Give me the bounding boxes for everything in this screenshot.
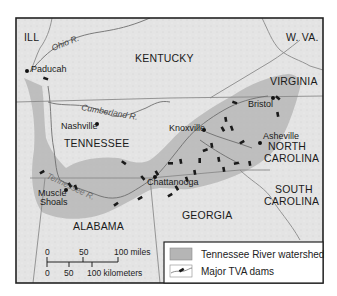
legend-watershed-label: Tennessee River watershed: [201, 249, 324, 260]
scale-km-50: 50: [64, 268, 74, 278]
city-label-asheville: Asheville: [263, 131, 299, 141]
state-label-ill: ILL: [24, 31, 39, 43]
state-label-georgia: GEORGIA: [182, 209, 232, 221]
city-label-paducah: Paducah: [31, 64, 67, 74]
city-label-nashville: Nashville: [61, 121, 98, 131]
state-label-wva: W. VA.: [286, 31, 319, 43]
city-dot-asheville: [258, 141, 262, 145]
city-label-knoxville: Knoxville: [169, 123, 205, 133]
scale-miles-100: 100 miles: [114, 247, 150, 257]
state-label-kentucky: KENTUCKY: [135, 52, 194, 64]
scale-miles-50: 50: [79, 247, 89, 257]
state-label-north: NORTH: [268, 140, 306, 152]
city-label-shoals: Shoals: [40, 197, 68, 207]
state-label-south: SOUTH: [275, 183, 313, 195]
state-label-alabama: ALABAMA: [73, 220, 124, 232]
state-label-tennessee: TENNESSEE: [64, 137, 129, 149]
scale-miles-0: 0: [45, 247, 50, 257]
dam-icon: [168, 162, 173, 165]
city-label-bristol: Bristol: [248, 99, 273, 109]
legend-watershed-swatch: [170, 248, 192, 260]
legend-dam-swatch: [170, 265, 192, 277]
city-label-chattanooga: Chattanooga: [147, 177, 199, 187]
legend-dam-label: Major TVA dams: [201, 266, 274, 277]
scale-km-0: 0: [45, 268, 50, 278]
tva-map: ILL KENTUCKY W. VA. VIRGINIA TENNESSEE N…: [0, 0, 337, 296]
scale-km-100: 100 kilometers: [87, 268, 142, 278]
state-label-virginia: VIRGINIA: [270, 75, 318, 87]
state-label-carolina-n: CAROLINA: [264, 152, 319, 164]
legend: Tennessee River watershed Major TVA dams: [164, 242, 324, 283]
dam-icon: [198, 158, 201, 163]
state-label-carolina-s: CAROLINA: [264, 195, 319, 207]
city-dot-paducah: [25, 69, 29, 73]
